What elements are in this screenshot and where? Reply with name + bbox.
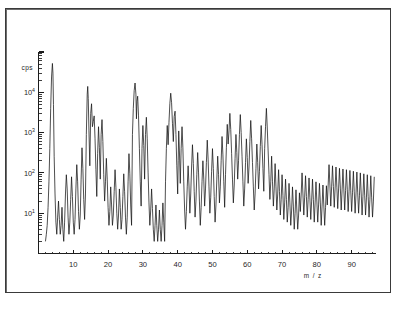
y-axis-title: cps xyxy=(22,64,34,72)
x-tick-label: 40 xyxy=(173,260,181,269)
x-axis-title: m / z xyxy=(304,272,322,279)
x-tick-label: 50 xyxy=(208,260,216,269)
x-axis-tick-labels: 102030405060708090 xyxy=(69,260,356,269)
x-tick-label: 20 xyxy=(104,260,112,269)
mass-spectrum-figure: 102030405060708090 101102103104 m / z cp… xyxy=(0,0,399,309)
y-tick-label: 104 xyxy=(24,87,35,97)
x-axis-ticks xyxy=(45,250,372,254)
x-tick-label: 80 xyxy=(313,260,321,269)
y-tick-label: 101 xyxy=(24,208,35,218)
x-tick-label: 10 xyxy=(69,260,77,269)
x-tick-label: 30 xyxy=(139,260,147,269)
x-tick-label: 90 xyxy=(347,260,355,269)
spectrum-trace xyxy=(45,63,374,241)
x-tick-label: 60 xyxy=(243,260,251,269)
y-tick-label: 102 xyxy=(24,168,35,178)
y-tick-label: 103 xyxy=(24,127,35,137)
x-tick-label: 70 xyxy=(278,260,286,269)
y-axis-tick-labels: 101102103104 xyxy=(24,87,35,218)
spectrum-plot: 102030405060708090 101102103104 m / z cp… xyxy=(0,0,399,309)
